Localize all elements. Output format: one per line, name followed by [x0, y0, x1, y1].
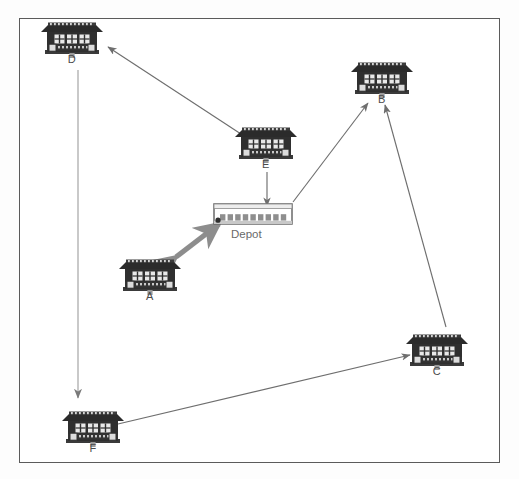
- node-depot[interactable]: [214, 204, 292, 224]
- node-label-a: A: [140, 290, 160, 302]
- diagram-canvas: D B E Depot A C F: [0, 0, 519, 479]
- node-label-d: D: [62, 53, 82, 65]
- node-label-f: F: [83, 442, 103, 454]
- node-label-b: B: [372, 93, 392, 105]
- node-label-e: E: [256, 158, 276, 170]
- node-label-c: C: [427, 365, 447, 377]
- node-label-depot: Depot: [231, 228, 262, 240]
